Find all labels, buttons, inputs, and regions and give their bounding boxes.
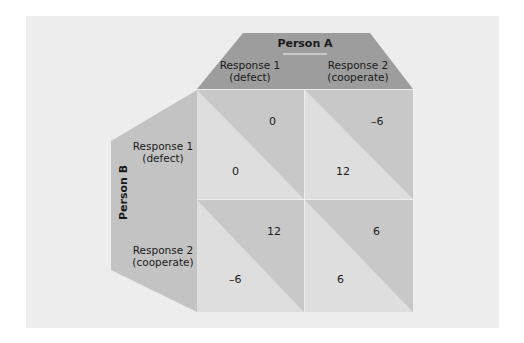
cell-1-1-b-payoff: 0 bbox=[232, 166, 239, 178]
cell-2-1-b-payoff: –6 bbox=[229, 274, 242, 286]
person-b-row-1-label: Response 1 (defect) bbox=[128, 140, 198, 164]
payoff-matrix-diagram: Person A Response 1 (defect) Response 2 … bbox=[0, 0, 524, 343]
matrix-shapes bbox=[0, 0, 524, 343]
cell-1-2-b-payoff: 12 bbox=[336, 166, 350, 178]
person-a-col-1-label: Response 1 (defect) bbox=[210, 59, 290, 83]
cell-1-1-a-payoff: 0 bbox=[269, 116, 276, 128]
cell-2-2-a-payoff: 6 bbox=[373, 226, 380, 238]
person-b-title: Person B bbox=[117, 165, 130, 220]
person-a-col-2-label: Response 2 (cooperate) bbox=[318, 59, 398, 83]
person-a-title: Person A bbox=[265, 38, 345, 50]
person-b-row-2-label: Response 2 (cooperate) bbox=[128, 244, 198, 268]
cell-1-2-a-payoff: –6 bbox=[371, 116, 384, 128]
cell-2-1-a-payoff: 12 bbox=[267, 226, 281, 238]
cell-2-2-b-payoff: 6 bbox=[337, 274, 344, 286]
